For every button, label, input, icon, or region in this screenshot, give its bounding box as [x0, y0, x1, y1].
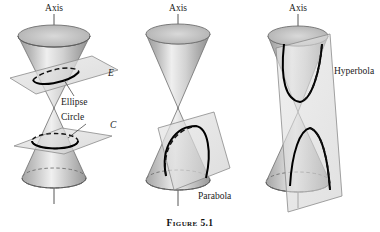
curve-label-hyperbola: Hyperbola [334, 66, 375, 76]
axis-label: Axis [169, 3, 187, 13]
axis-label: Axis [289, 3, 307, 13]
figure-container: Axis E C Ellipse Circle [0, 0, 380, 232]
plane-label-E: E [107, 68, 114, 78]
axis-label: Axis [45, 3, 63, 13]
upper-nappe-rim [146, 24, 210, 44]
cutting-plane-hyperbola [276, 34, 342, 212]
curve-label-parabola: Parabola [198, 191, 232, 201]
curve-label-ellipse: Ellipse [61, 97, 87, 107]
panel-parabola: Axis Parabola [146, 3, 232, 206]
figure-caption: Figure 5.1 [0, 218, 380, 228]
curve-label-circle: Circle [61, 112, 84, 122]
conic-sections-figure: Axis E C Ellipse Circle [0, 0, 380, 232]
cutting-plane-C [14, 128, 112, 154]
panel-hyperbola: Axis Hyperbola [266, 3, 375, 212]
panel-ellipse-circle: Axis E C Ellipse Circle [10, 3, 118, 204]
plane-label-C: C [110, 120, 117, 130]
upper-nappe-body [146, 34, 210, 108]
